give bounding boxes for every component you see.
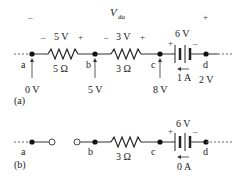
battery-minus: – — [192, 126, 198, 136]
battery-plus: + — [168, 38, 173, 48]
vda-minus-sign: – — [27, 12, 33, 22]
node-b-label: b — [88, 146, 93, 157]
probe-arrow-a-icon — [30, 58, 34, 78]
r1-value: 5 Ω — [53, 63, 68, 74]
node-a-label: a — [21, 59, 26, 70]
node-b-label: b — [86, 59, 91, 70]
current-arrow-icon — [177, 155, 189, 159]
panel-a: – V da + – 5 V + – 3 V + 6 V — [14, 6, 233, 107]
node-a — [29, 139, 34, 144]
battery-voltage: 6 V — [175, 28, 190, 39]
node-b — [92, 139, 97, 144]
node-a-label: a — [21, 146, 26, 157]
battery-voltage: 6 V — [176, 118, 191, 129]
circuit-diagram: – V da + – 5 V + – 3 V + 6 V — [0, 0, 235, 184]
probe-arrow-c-icon — [158, 58, 162, 78]
resistor-3-ohm — [111, 137, 141, 147]
battery-icon — [175, 45, 190, 63]
node-d — [203, 51, 208, 56]
resistor-3-ohm — [111, 49, 141, 59]
panel-b: 6 V + – a b c d 3 Ω 0 A (b) — [14, 118, 233, 172]
probe-arrow-b-icon — [93, 58, 97, 78]
r1-voltage: 5 V — [54, 31, 69, 42]
vda-plus-sign: + — [203, 12, 208, 22]
vda-label: V — [110, 6, 118, 18]
node-d-voltage: 2 V — [199, 74, 214, 85]
battery-minus: – — [192, 38, 198, 48]
battery-icon — [175, 133, 190, 151]
node-d-label: d — [203, 146, 208, 157]
node-c — [157, 51, 162, 56]
r2-voltage: 3 V — [116, 31, 131, 42]
node-c-voltage: 8 V — [153, 84, 168, 95]
node-d-label: d — [203, 59, 208, 70]
node-c-label: c — [151, 146, 156, 157]
current-arrow-icon — [177, 67, 189, 71]
r1-minus: – — [40, 32, 46, 42]
panel-b-caption: (b) — [14, 159, 26, 171]
node-a — [29, 51, 34, 56]
resistor-value: 3 Ω — [116, 151, 131, 162]
node-a-voltage: 0 V — [25, 84, 40, 95]
battery-current: 1 A — [177, 72, 192, 83]
panel-a-caption: (a) — [14, 95, 25, 107]
r2-value: 3 Ω — [116, 63, 131, 74]
node-b-voltage: 5 V — [88, 84, 103, 95]
node-c — [157, 139, 162, 144]
open-terminal-right — [74, 139, 80, 145]
resistor-5-ohm — [48, 49, 78, 59]
r2-plus: + — [140, 32, 145, 42]
node-b — [92, 51, 97, 56]
open-terminal-left — [49, 139, 55, 145]
battery-plus: + — [168, 126, 173, 136]
node-c-label: c — [151, 59, 156, 70]
vda-subscript: da — [118, 13, 126, 21]
battery-current: 0 A — [177, 161, 192, 172]
r1-plus: + — [78, 32, 83, 42]
r2-minus: – — [103, 32, 109, 42]
